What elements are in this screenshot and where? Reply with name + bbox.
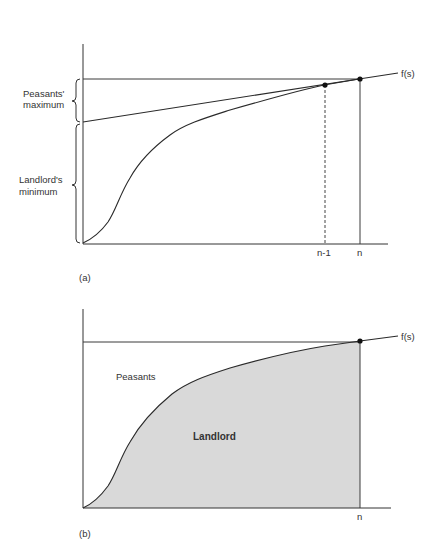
panel-b-caption: (b) <box>79 528 91 539</box>
panel-a: f(s) n-1 n Peasants' maximum Landlord's … <box>19 44 415 283</box>
panel-b-landlord-area <box>83 341 360 508</box>
panel-b-landlord-label: Landlord <box>193 431 236 442</box>
panel-a-point-n <box>357 76 362 81</box>
panel-b-fs-label: f(s) <box>401 331 415 342</box>
panel-b-peasants-label: Peasants <box>116 371 156 382</box>
panel-a-peasants-maximum-label-line1: Peasants' <box>23 88 65 99</box>
panel-a-production-curve <box>83 73 398 243</box>
panel-a-tangent-line <box>83 79 359 122</box>
panel-a-tick-n-minus-1: n-1 <box>317 247 331 258</box>
panel-a-landlords-minimum-label-line1: Landlord's <box>19 174 63 185</box>
panel-a-tick-n: n <box>357 247 362 258</box>
panel-a-peasants-maximum-label-line2: maximum <box>23 99 64 110</box>
panel-a-brace-peasants-maximum <box>72 79 80 122</box>
panel-a-point-n-minus-1 <box>322 82 327 87</box>
figure: f(s) n-1 n Peasants' maximum Landlord's … <box>0 0 436 552</box>
panel-b-point-n <box>357 338 362 343</box>
panel-a-fs-label: f(s) <box>401 68 415 79</box>
panel-b-tick-n: n <box>357 511 362 522</box>
panel-a-caption: (a) <box>79 272 91 283</box>
panel-b: f(s) Peasants Landlord n (b) <box>79 309 415 539</box>
panel-a-brace-landlords-minimum <box>72 124 80 243</box>
panel-a-landlords-minimum-label-line2: minimum <box>19 186 58 197</box>
